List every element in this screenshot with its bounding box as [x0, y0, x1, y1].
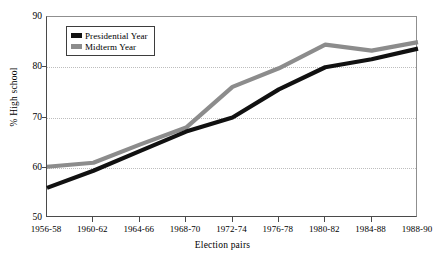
x-tick-mark-1968-70: [185, 217, 186, 222]
x-tick-mark-1960-62: [92, 217, 93, 222]
y-axis-title: % High school: [9, 52, 19, 142]
y-tick-label-60: 60: [0, 162, 42, 172]
x-tick-label-1988-90: 1988-90: [382, 224, 445, 234]
chart-figure: 5060708090 % High school 1956-581960-621…: [0, 0, 445, 265]
y-tick-mark-80: [42, 66, 46, 67]
x-tick-mark-1980-82: [324, 217, 325, 222]
x-tick-mark-1976-78: [278, 217, 279, 222]
y-tick-label-90: 90: [0, 11, 42, 21]
x-tick-mark-1984-88: [371, 217, 372, 222]
legend-label: Midterm Year: [85, 42, 136, 52]
y-tick-label-70: 70: [0, 112, 42, 122]
y-tick-mark-60: [42, 167, 46, 168]
y-tick-label-80: 80: [0, 61, 42, 71]
x-tick-mark-1972-74: [232, 217, 233, 222]
legend-item-midterm-year: Midterm Year: [71, 41, 148, 52]
y-tick-label-50: 50: [0, 212, 42, 222]
x-axis-title: Election pairs: [0, 240, 445, 250]
x-tick-mark-1964-66: [139, 217, 140, 222]
legend-item-presidential-year: Presidential Year: [71, 30, 148, 41]
legend-label: Presidential Year: [85, 31, 148, 41]
y-tick-mark-70: [42, 117, 46, 118]
legend-swatch-icon: [71, 44, 82, 49]
chart-legend: Presidential YearMidterm Year: [66, 26, 155, 56]
legend-swatch-icon: [71, 33, 82, 38]
